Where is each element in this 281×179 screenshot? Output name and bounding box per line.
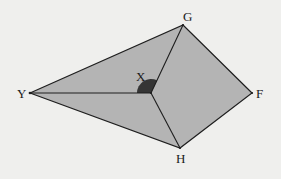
vertex-point-G xyxy=(182,24,184,26)
vertex-label-G: G xyxy=(183,10,192,23)
vertex-point-F xyxy=(251,92,253,94)
vertex-point-X xyxy=(150,92,152,94)
diagram-canvas: G Y X F H xyxy=(0,0,281,179)
vertex-point-H xyxy=(179,147,181,149)
vertex-label-X: X xyxy=(136,70,145,83)
vertex-label-Y: Y xyxy=(17,87,26,100)
vertex-label-H: H xyxy=(176,152,185,165)
quadrilateral-figure xyxy=(0,0,281,179)
vertex-point-Y xyxy=(29,92,32,95)
vertex-label-F: F xyxy=(256,87,263,100)
